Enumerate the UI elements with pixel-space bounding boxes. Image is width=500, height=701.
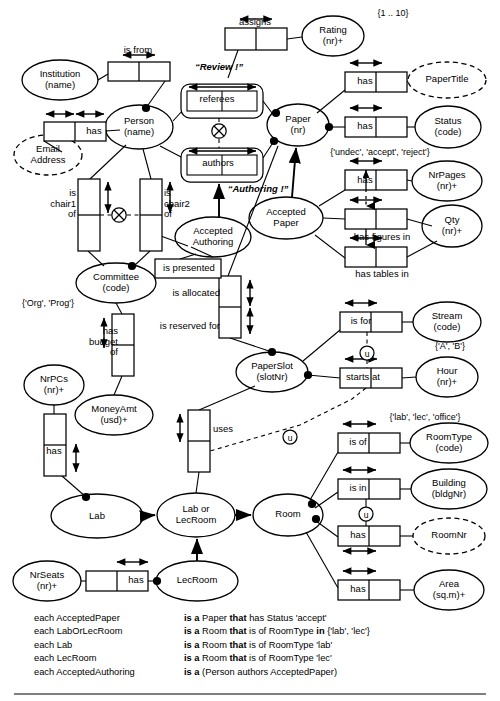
connector-uses-lablec	[196, 472, 199, 493]
entity-label-acceptedauthoring: Accepted Authoring	[175, 226, 251, 247]
connector-room-isof	[310, 452, 338, 500]
mandatory-dot-paper-authors	[270, 137, 278, 145]
connector-slot-uses	[199, 386, 255, 410]
connector-room-roomnr	[316, 521, 338, 537]
connector-slot-isfor	[303, 330, 340, 361]
predicate-box-is-chair1-of[interactable]	[78, 179, 100, 251]
derivation-rule-predicate: is a (Person authors AcceptedPaper)	[184, 666, 370, 679]
derivation-rule-predicate: is a Paper that has Status 'accept'	[184, 612, 370, 625]
connector-aa-presented	[180, 254, 196, 259]
entity-label-nrseats: NrSeats (nr)+	[13, 570, 81, 591]
predicate-box-is-allocated-reserved[interactable]	[219, 276, 241, 338]
derivation-rules-table: each AcceptedPaperis a Paper that has St…	[34, 612, 370, 679]
entity-label-institution: Institution (name)	[22, 69, 98, 90]
connector-ap-nrpages	[319, 190, 345, 206]
connector-person-authors	[160, 146, 183, 158]
connector-slot-startsat	[308, 375, 340, 378]
exclusion-constraint-review-authoring	[212, 124, 226, 138]
derivation-rule-predicate: is a Room that is of RoomType 'lab'	[184, 639, 370, 652]
connector-slot-reserved	[230, 338, 272, 352]
entity-label-stream: Stream (code)	[413, 311, 481, 332]
objectified-label-review: “Review !”	[169, 62, 269, 73]
entity-label-building: Building (bldgNr)	[411, 478, 487, 499]
connector-room-area	[306, 532, 338, 588]
subtype-arrow-lab-laborlecroom	[143, 515, 155, 516]
connector-chair1-committee	[88, 251, 104, 266]
entity-label-room: Room	[253, 509, 323, 520]
predicate-box-assigns[interactable]	[225, 28, 287, 50]
connector-budget-money	[114, 376, 122, 395]
derivation-rule-subject: each LecRoom	[34, 652, 184, 665]
connector-ap-figures	[323, 218, 345, 219]
entity-label-roomnr: RoomNr	[413, 530, 485, 541]
connector-referees-paper	[263, 101, 272, 113]
predicate-box-is-from[interactable]	[108, 62, 170, 81]
predicate-box-has-figures-in[interactable]	[345, 209, 407, 229]
derivation-rule-subject: each AcceptedPaper	[34, 612, 184, 625]
predicate-label-lab-has-nrpcs: has	[38, 446, 70, 457]
entity-label-person: Person (name)	[104, 116, 174, 137]
predicate-label-uses: uses	[213, 424, 253, 435]
value-constraint-committee-values: {'Org', 'Prog'}	[8, 298, 88, 308]
entity-label-area: Area (sq.m)+	[414, 579, 484, 600]
connector-tables-qty	[407, 241, 437, 257]
connector-person-chair2	[143, 149, 151, 179]
predicate-label-is-from: is from	[108, 45, 168, 56]
predicate-label-room-is-of-roomtype: is of	[341, 437, 375, 448]
entity-label-lab: Lab	[51, 511, 143, 522]
mandatory-dot-committee-chair2	[128, 262, 136, 270]
predicate-label-is-presented: is presented	[155, 263, 223, 274]
predicate-box-uses[interactable]	[188, 410, 210, 472]
predicate-label-is-reserved-for: is reserved for	[124, 321, 220, 332]
derivation-rule-row: each AcceptedAuthoringis a (Person autho…	[34, 666, 370, 679]
entity-label-status: Status (code)	[415, 116, 481, 137]
value-constraint-stream-values: {'A', 'B'}	[412, 341, 488, 351]
entity-label-nrpages: NrPages (nr)+	[412, 170, 482, 191]
external-uniqueness-stream-hour: u	[360, 346, 374, 360]
entity-label-nrpcs: NrPCs (nr)+	[24, 374, 84, 395]
objectified-label-authoring: “Authoring !”	[204, 184, 312, 195]
entity-label-laborlecroom: Lab or LecRoom	[157, 504, 235, 525]
entity-label-email-address: Email Address	[14, 144, 82, 165]
derivation-rule-predicate: is a Room that is of RoomType in {'lab',…	[184, 625, 370, 638]
exclusion-constraint-chair1-chair2	[112, 208, 126, 222]
predicate-box-is-chair2-of[interactable]	[140, 179, 162, 251]
entity-label-paper: Paper (nr)	[267, 114, 329, 135]
predicate-label-is-allocated: is allocated	[140, 288, 220, 299]
connector-startsat-hour	[402, 377, 416, 378]
mandatory-dot-room-isof	[308, 500, 316, 508]
external-uniqueness-building-roomnr: u	[359, 507, 373, 521]
connector-committee-budget	[116, 303, 122, 314]
entity-label-rating: Rating (nr)+	[302, 25, 364, 46]
entity-label-moneyamt: MoneyAmt (usd)+	[75, 404, 153, 425]
connector-inst-isfrom	[98, 74, 108, 80]
connector-person-chair1	[90, 145, 126, 179]
predicate-label-room-has-roomnr: has	[341, 530, 375, 541]
predicate-label-authors: authors	[191, 158, 245, 169]
mandatory-dot-lab-nrpcs	[82, 493, 90, 501]
entity-label-acceptedpaper: Accepted Paper	[249, 207, 323, 228]
predicate-label-paper-has-status: has	[348, 121, 382, 132]
derivation-rule-subject: each AcceptedAuthoring	[34, 666, 184, 679]
derivation-rules-block: each AcceptedPaperis a Paper that has St…	[34, 612, 474, 679]
entity-label-roomtype: RoomType (code)	[410, 432, 488, 453]
svg-text:u: u	[364, 510, 369, 520]
predicate-label-room-has-area: has	[341, 584, 375, 595]
predicate-label-is-chair1-of: is chair1 of	[36, 188, 76, 220]
derivation-rule-row: each LecRoomis a Room that is of RoomTyp…	[34, 652, 370, 665]
derivation-rule-subject: each Lab	[34, 639, 184, 652]
mandatory-dot-person-isfrom	[142, 104, 150, 112]
connector-assigns-rating	[287, 37, 302, 39]
derivation-rule-row: each Labis a Room that is of RoomType 'l…	[34, 639, 370, 652]
external-uniqueness-slot-room: u	[283, 430, 297, 444]
connector-room-isin	[315, 492, 338, 508]
predicate-box-has-tables-in[interactable]	[345, 247, 407, 267]
value-constraint-roomtype-values: {'lab', 'lec', 'office'}	[362, 412, 488, 422]
predicate-label-person-has-email: has	[76, 126, 112, 137]
predicate-label-has-budget-of: has budget of	[74, 326, 118, 358]
svg-text:u: u	[288, 433, 293, 443]
derivation-rule-row: each LabOrLecRoomis a Room that is of Ro…	[34, 625, 370, 638]
value-constraint-status-values: {'undec', 'accept', 'reject'}	[312, 147, 448, 157]
mandatory-dot-slot-reserved	[268, 348, 276, 356]
value-constraint-rating-range: {1 .. 10}	[358, 8, 428, 18]
